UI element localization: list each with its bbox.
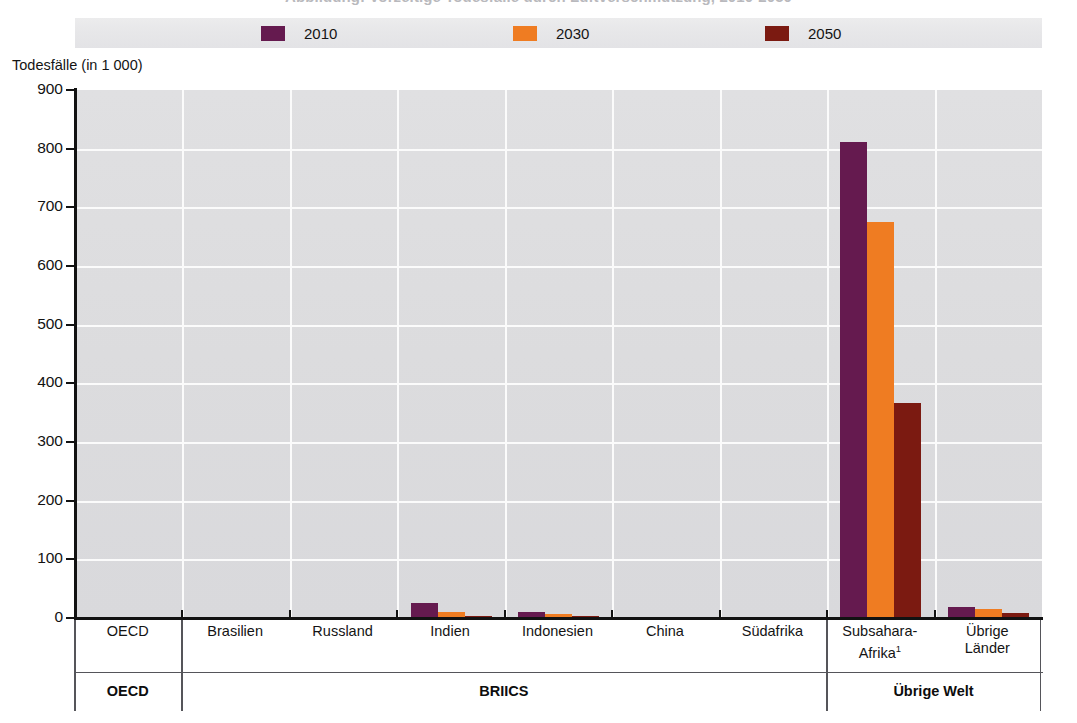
group-separator <box>1040 620 1042 672</box>
y-tick-mark <box>66 558 76 560</box>
group-separator <box>74 673 76 711</box>
legend-item-2050: 2050 <box>765 25 841 42</box>
group-label: OECD <box>74 683 181 699</box>
y-tick-mark <box>66 89 76 91</box>
cropped-title-strip: Abbildung: Vorzeitige Todesfälle durch L… <box>0 0 1077 14</box>
x-tick-mark <box>504 610 506 620</box>
gridline-vertical <box>720 90 722 618</box>
y-tick-label: 600 <box>37 256 63 274</box>
gridline-vertical <box>182 90 184 618</box>
category-axis: OECDBrasilienRusslandIndienIndonesienChi… <box>74 620 1043 672</box>
category-label: Brasilien <box>181 623 288 640</box>
category-label: OECD <box>74 623 181 640</box>
gridline-vertical <box>935 90 937 618</box>
legend-label-2010: 2010 <box>304 25 337 42</box>
gridline-horizontal <box>75 149 1042 151</box>
gridline-horizontal <box>75 325 1042 327</box>
x-tick-mark <box>396 610 398 620</box>
group-separator <box>826 620 828 672</box>
group-separator <box>826 673 828 711</box>
x-tick-mark <box>934 610 936 620</box>
bar-2010-Indien <box>411 603 438 618</box>
group-separator <box>74 620 76 672</box>
legend-label-2050: 2050 <box>808 25 841 42</box>
gridline-horizontal <box>75 266 1042 268</box>
gridline-horizontal <box>75 207 1042 209</box>
x-tick-mark <box>611 610 613 620</box>
legend-label-2030: 2030 <box>556 25 589 42</box>
category-label: Subsahara-Afrika1 <box>826 623 933 662</box>
legend-swatch-2030 <box>513 26 537 41</box>
x-tick-mark <box>181 610 183 620</box>
y-tick-mark <box>66 265 76 267</box>
y-tick-mark <box>66 441 76 443</box>
bar-2030-Subsahara-Afrika <box>867 222 894 618</box>
bar-2010-Subsahara-Afrika <box>840 142 867 618</box>
group-label: Übrige Welt <box>826 683 1041 699</box>
legend-item-2010: 2010 <box>261 25 337 42</box>
y-tick-mark <box>66 148 76 150</box>
group-separator <box>181 620 183 672</box>
group-separator <box>181 673 183 711</box>
category-label: Indien <box>396 623 503 640</box>
x-tick-mark <box>826 610 828 620</box>
y-tick-label: 400 <box>37 373 63 391</box>
gridline-vertical <box>505 90 507 618</box>
y-tick-label: 700 <box>37 197 63 215</box>
category-label: Indonesien <box>504 623 611 640</box>
gridline-vertical <box>827 90 829 618</box>
group-axis: OECDBRIICSÜbrige Welt <box>74 672 1043 711</box>
category-label: Russland <box>289 623 396 640</box>
category-label: ÜbrigeLänder <box>934 623 1041 657</box>
category-label: China <box>611 623 718 640</box>
category-label: Südafrika <box>719 623 826 640</box>
y-tick-label: 900 <box>37 80 63 98</box>
y-tick-label: 200 <box>37 491 63 509</box>
y-tick-label: 100 <box>37 549 63 567</box>
y-tick-label: 300 <box>37 432 63 450</box>
x-tick-mark <box>719 610 721 620</box>
y-tick-mark <box>66 382 76 384</box>
legend-item-2030: 2030 <box>513 25 589 42</box>
y-tick-mark <box>66 206 76 208</box>
y-tick-mark <box>66 500 76 502</box>
bar-2050-Subsahara-Afrika <box>894 403 921 618</box>
gridline-vertical <box>290 90 292 618</box>
gridline-horizontal <box>75 383 1042 385</box>
y-tick-label: 800 <box>37 139 63 157</box>
y-tick-label: 0 <box>54 608 63 626</box>
group-label: BRIICS <box>181 683 826 699</box>
y-axis-line <box>74 88 77 620</box>
group-separator <box>1040 673 1042 711</box>
y-tick-mark <box>66 324 76 326</box>
gridline-vertical <box>612 90 614 618</box>
legend-swatch-2050 <box>765 26 789 41</box>
legend-swatch-2010 <box>261 26 285 41</box>
y-axis-title: Todesfälle (in 1 000) <box>12 57 143 73</box>
y-tick-mark <box>66 617 76 619</box>
plot-area <box>75 90 1042 618</box>
x-tick-mark <box>289 610 291 620</box>
chart-legend: 2010 2030 2050 <box>75 18 1042 48</box>
y-tick-label: 500 <box>37 315 63 333</box>
chart-title-ghost: Abbildung: Vorzeitige Todesfälle durch L… <box>0 0 1077 5</box>
gridline-vertical <box>397 90 399 618</box>
